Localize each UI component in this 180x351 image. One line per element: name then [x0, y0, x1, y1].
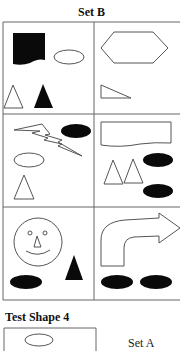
set-b-grid — [0, 0, 180, 351]
black-triangle-icon — [34, 84, 53, 108]
outline-right-triangle-icon — [101, 85, 131, 98]
outline-hexagon-icon — [101, 32, 168, 63]
black-triangle-icon — [65, 255, 83, 280]
black-ellipse-icon — [61, 124, 91, 138]
cell-r1-c2 — [101, 32, 168, 98]
outline-ellipse-icon — [54, 50, 84, 64]
smiley-face-icon — [14, 218, 62, 266]
set-a-label: Set A — [128, 336, 154, 351]
outline-wavy-rectangle-icon — [101, 122, 171, 146]
outline-ellipse-icon — [25, 334, 53, 346]
cell-r2-c2 — [101, 122, 173, 198]
cell-r1-c1 — [4, 33, 84, 108]
cell-r3-c1 — [10, 218, 83, 289]
outline-triangle-icon — [4, 85, 23, 108]
outline-triangle-icon — [124, 159, 143, 183]
outline-triangle-icon — [14, 175, 34, 199]
black-ellipse-icon — [143, 153, 173, 167]
test-shape-title: Test Shape 4 — [5, 310, 69, 325]
black-ellipse-icon — [101, 275, 133, 289]
black-wavy-square-icon — [13, 33, 45, 65]
curved-arrow-icon — [101, 213, 180, 266]
black-ellipse-icon — [140, 275, 172, 289]
cell-r3-c2 — [101, 213, 180, 289]
black-ellipse-icon — [10, 275, 42, 289]
test-shape-box — [4, 328, 96, 351]
outline-ellipse-icon — [14, 153, 44, 167]
cell-r2-c1 — [14, 124, 91, 199]
outline-triangle-icon — [104, 160, 123, 184]
black-ellipse-icon — [143, 184, 173, 198]
